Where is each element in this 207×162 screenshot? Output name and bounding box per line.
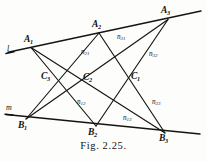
edge-n21-subscript: 21 xyxy=(84,51,89,56)
line-l-label: l xyxy=(7,45,9,53)
edge-label-n23: n23 xyxy=(152,99,161,106)
edge-n12-subscript: 12 xyxy=(80,101,85,106)
point-label-c3: C3 xyxy=(41,72,50,82)
line-m-left-tick xyxy=(5,114,13,115)
point-label-c1: C1 xyxy=(131,72,140,82)
edge-label-n32: n32 xyxy=(149,51,158,58)
point-label-b1: B1 xyxy=(18,121,27,131)
point-b2-subscript: 2 xyxy=(94,131,97,138)
edge-n31-subscript: 31 xyxy=(120,36,125,41)
edge-label-n21: n21 xyxy=(81,49,90,56)
line-m-label: m xyxy=(6,104,12,112)
point-c1-subscript: 1 xyxy=(137,75,140,82)
edge-label-n12: n12 xyxy=(77,99,86,106)
figure-container: l m A1 A2 A3 B1 B2 B3 C1 C2 C3 n21 n31 n… xyxy=(0,0,207,162)
point-b1-subscript: 1 xyxy=(24,124,27,131)
point-label-a1: A1 xyxy=(24,35,33,45)
point-a1-subscript: 1 xyxy=(30,38,33,45)
edge-label-n13: n13 xyxy=(123,115,132,122)
line-l xyxy=(8,11,201,52)
point-label-c2: C2 xyxy=(83,73,92,83)
point-label-a3: A3 xyxy=(161,6,170,16)
segment-a3-b1 xyxy=(26,20,168,120)
point-label-b2: B2 xyxy=(88,128,97,138)
segment-a2-b3 xyxy=(99,33,165,133)
point-a2-subscript: 2 xyxy=(98,23,101,30)
edge-label-n31: n31 xyxy=(117,34,126,41)
segment-a1-b2 xyxy=(31,48,96,127)
point-label-a2: A2 xyxy=(92,20,101,30)
line-m xyxy=(6,115,200,134)
edge-n23-subscript: 23 xyxy=(155,101,160,106)
point-a3-subscript: 3 xyxy=(167,9,170,16)
point-c3-subscript: 3 xyxy=(47,75,50,82)
edge-n13-subscript: 13 xyxy=(126,117,131,122)
point-c2-subscript: 2 xyxy=(89,76,92,83)
geometry-diagram xyxy=(0,0,207,162)
figure-caption: Fig. 2.25. xyxy=(0,140,207,151)
edge-n32-subscript: 32 xyxy=(152,53,157,58)
